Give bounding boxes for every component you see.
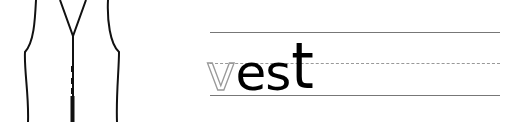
traced-letter: v xyxy=(206,48,236,100)
vest-icon xyxy=(0,0,130,122)
solid-letters: es xyxy=(236,48,291,100)
tall-letter: t xyxy=(292,34,314,100)
practice-word: v es t xyxy=(206,20,315,100)
